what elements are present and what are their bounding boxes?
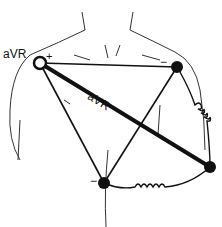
- lower-electrode-icon: [98, 177, 110, 189]
- avr-axis-line: [40, 63, 210, 167]
- torso-outline: [10, 12, 205, 227]
- negative-sign-leg: −: [90, 175, 97, 187]
- positive-sign: +: [46, 51, 52, 62]
- right-arm-electrode-icon: [34, 57, 46, 69]
- electrode-label: aVR: [3, 48, 26, 60]
- left-arm-electrode-icon: [171, 61, 183, 73]
- negative-sign-left-arm: −: [160, 56, 167, 68]
- left-leg-electrode-icon: [204, 161, 216, 173]
- aVR-lead-diagram: aVR + − − aVR: [0, 0, 222, 227]
- lead-lines: [40, 63, 177, 183]
- torso-sketch: [0, 0, 222, 227]
- leg-coil-wire: [104, 167, 210, 188]
- ra-la-line: [40, 63, 177, 67]
